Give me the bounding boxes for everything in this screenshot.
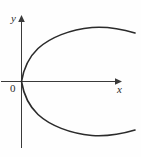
parabola-upper-branch (22, 27, 136, 81)
x-axis-label: x (117, 84, 122, 95)
parabola-graph-canvas (0, 0, 141, 157)
y-axis-label: y (11, 13, 16, 24)
parabola-figure: y x 0 (0, 0, 141, 157)
y-axis-arrow-icon (18, 15, 25, 22)
origin-label: 0 (10, 83, 16, 94)
